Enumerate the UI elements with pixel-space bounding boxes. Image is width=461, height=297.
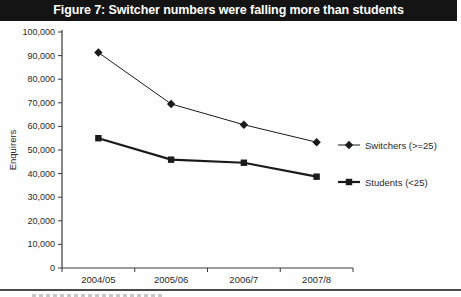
y-tick-label: 30,000 bbox=[27, 192, 55, 202]
y-axis-title: Enquirers bbox=[7, 129, 18, 170]
series-students-25 bbox=[95, 135, 320, 180]
marker-diamond bbox=[312, 138, 320, 146]
y-tick-label: 50,000 bbox=[27, 145, 55, 155]
y-tick-label: 100,000 bbox=[22, 27, 55, 37]
figure-7-panel: Figure 7: Switcher numbers were falling … bbox=[0, 0, 461, 297]
series-line-switchers-25 bbox=[98, 53, 316, 143]
x-tick-label: 2007/8 bbox=[302, 274, 331, 285]
legend-marker-square bbox=[346, 179, 352, 185]
y-tick-label: 60,000 bbox=[27, 121, 55, 131]
legend-item-switchers-25: Switchers (>=25) bbox=[338, 140, 437, 151]
y-tick-label: 40,000 bbox=[27, 169, 55, 179]
x-tick-label: 2005/06 bbox=[154, 274, 188, 285]
marker-diamond bbox=[94, 48, 102, 56]
line-chart: 010,00020,00030,00040,00050,00060,00070,… bbox=[0, 22, 461, 288]
legend-item-students-25: Students (<25) bbox=[338, 177, 428, 188]
series-switchers-25 bbox=[94, 48, 321, 146]
marker-square bbox=[313, 173, 319, 179]
y-tick-label: 0 bbox=[50, 263, 55, 273]
y-tick-label: 70,000 bbox=[27, 98, 55, 108]
footer-divider bbox=[0, 289, 461, 291]
y-tick-label: 80,000 bbox=[27, 74, 55, 84]
marker-diamond bbox=[240, 121, 248, 129]
y-tick-label: 10,000 bbox=[27, 239, 55, 249]
legend-label: Switchers (>=25) bbox=[365, 140, 437, 151]
marker-square bbox=[168, 156, 174, 162]
x-tick-label: 2004/05 bbox=[81, 274, 115, 285]
marker-diamond bbox=[167, 100, 175, 108]
legend-marker-diamond bbox=[345, 141, 353, 149]
marker-square bbox=[95, 135, 101, 141]
marker-square bbox=[241, 160, 247, 166]
y-tick-label: 90,000 bbox=[27, 51, 55, 61]
legend-label: Students (<25) bbox=[365, 177, 428, 188]
y-tick-label: 20,000 bbox=[27, 216, 55, 226]
series-line-students-25 bbox=[98, 138, 316, 176]
figure-title: Figure 7: Switcher numbers were falling … bbox=[0, 0, 457, 21]
x-tick-label: 2006/7 bbox=[229, 274, 258, 285]
